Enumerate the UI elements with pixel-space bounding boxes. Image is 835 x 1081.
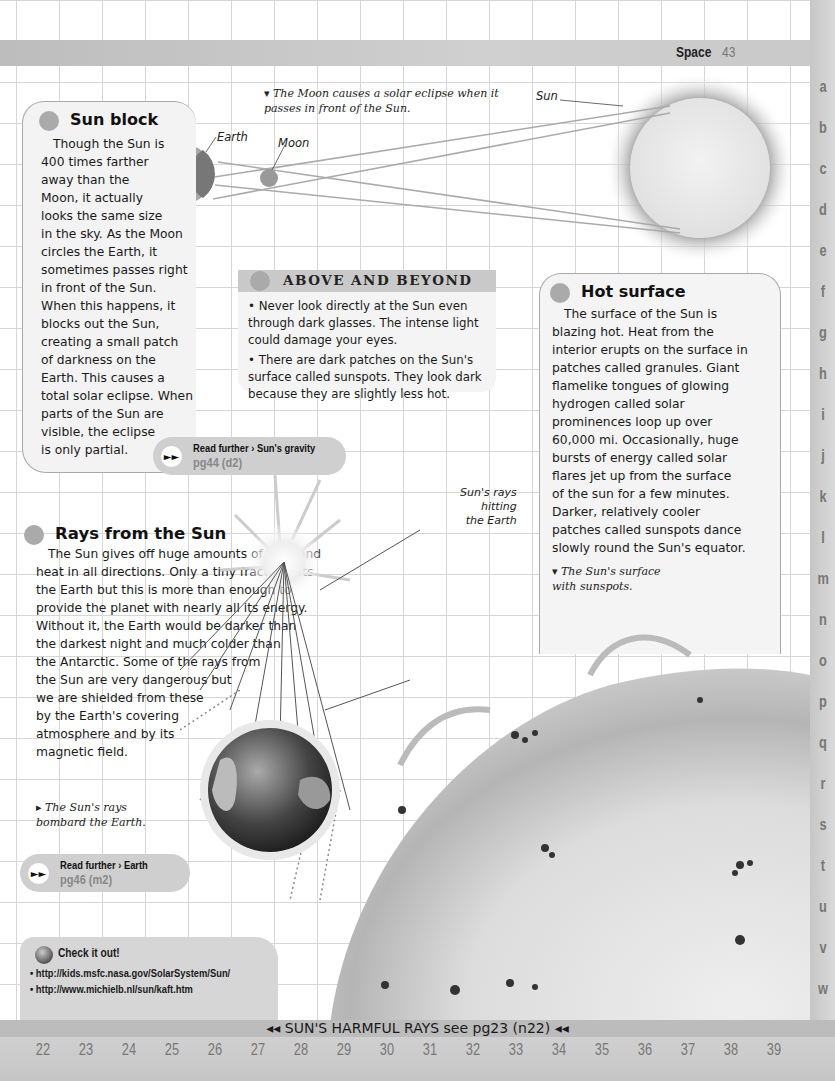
web-link-1[interactable]: • http://kids.msfc.nasa.gov/SolarSystem/… xyxy=(30,967,230,979)
grid-column-number: 31 xyxy=(423,1041,437,1059)
sun-rays-earth-illustration xyxy=(180,470,500,900)
side-index-letter-t: t xyxy=(817,857,828,875)
moon-label: Moon xyxy=(278,136,309,150)
grid-column-number: 27 xyxy=(251,1041,265,1059)
text-line: prominences loop up over xyxy=(552,413,782,431)
side-index-letter-b: b xyxy=(817,119,828,137)
side-index-letter-m: m xyxy=(817,570,828,588)
side-index-letter-j: j xyxy=(817,447,828,465)
grid-column-number: 34 xyxy=(552,1041,566,1059)
hot-surface-title: Hot surface xyxy=(581,282,686,301)
text-line: creating a small patch xyxy=(41,333,211,351)
hot-surface-heading-row: Hot surface xyxy=(550,282,686,303)
text-line: blazing hot. Heat from the xyxy=(552,323,782,341)
text-line: Earth. This causes a xyxy=(41,369,211,387)
footer-grid-numbers: 222324252627282930313233343536373839 xyxy=(0,1037,835,1081)
text-line: Though the Sun is xyxy=(41,135,211,153)
hot-surface-caption: ▾ The Sun's surfacewith sunspots. xyxy=(552,564,661,594)
side-index-letter-v: v xyxy=(817,939,828,957)
text-line: bursts of energy called solar xyxy=(552,449,782,467)
text-line: Darker, relatively cooler xyxy=(552,503,782,521)
text-line: 400 times farther xyxy=(41,153,211,171)
text-line: of darkness on the xyxy=(41,351,211,369)
text-line: 60,000 mi. Occasionally, huge xyxy=(552,431,782,449)
grid-column-number: 37 xyxy=(681,1041,695,1059)
text-line: parts of the Sun are xyxy=(41,405,211,423)
web-link-2[interactable]: • http://www.michielb.nl/sun/kaft.htm xyxy=(30,983,193,995)
read-further-earth-button[interactable]: ►► Read further › Earth pg46 (m2) xyxy=(20,854,190,892)
side-index-letter-u: u xyxy=(817,898,828,916)
section-bullet-icon xyxy=(550,283,570,303)
grid-column-number: 39 xyxy=(767,1041,781,1059)
sun-block-box: Sun block Though the Sun is400 times far… xyxy=(22,101,196,473)
above-and-beyond-item-1: • Never look directly at the Sun even th… xyxy=(248,298,488,349)
text-line: slowly round the Sun's equator. xyxy=(552,539,782,557)
text-line: with sunspots. xyxy=(552,579,661,594)
sun-label: Sun xyxy=(536,89,558,103)
side-index-letter-d: d xyxy=(817,201,828,219)
side-index-letter-n: n xyxy=(817,611,828,629)
sun-block-body: Though the Sun is400 times fartheraway t… xyxy=(41,135,211,459)
side-index-letter-a: a xyxy=(817,78,828,96)
above-and-beyond-title: ABOVE AND BEYOND xyxy=(283,272,473,288)
text-line: ▸ The Sun's rays xyxy=(36,800,146,815)
section-bullet-icon xyxy=(39,111,59,131)
grid-column-number: 28 xyxy=(294,1041,308,1059)
sun-block-title: Sun block xyxy=(70,110,158,129)
grid-column-number: 23 xyxy=(79,1041,93,1059)
side-index-tab: abcdefghijklmnopqrstuvw xyxy=(810,0,835,1030)
section-bullet-icon xyxy=(250,271,270,291)
text-line: total solar eclipse. When xyxy=(41,387,211,405)
grid-column-number: 38 xyxy=(724,1041,738,1059)
check-it-out-title: Check it out! xyxy=(58,946,120,960)
text-line: Moon, it actually xyxy=(41,189,211,207)
check-it-out-box: Check it out! • http://kids.msfc.nasa.go… xyxy=(20,937,278,1020)
grid-column-number: 33 xyxy=(509,1041,523,1059)
grid-column-number: 29 xyxy=(337,1041,351,1059)
read-further-label: Read further › Sun's gravity xyxy=(193,442,315,454)
text-line: bombard the Earth. xyxy=(36,815,146,830)
text-line: of the sun for a few minutes. xyxy=(552,485,782,503)
text-line: flares jet up from the surface xyxy=(552,467,782,485)
grid-column-number: 22 xyxy=(36,1041,50,1059)
text-line: circles the Earth, it xyxy=(41,243,211,261)
grid-column-number: 36 xyxy=(638,1041,652,1059)
text-line: ▾ The Sun's surface xyxy=(552,564,661,579)
text-line: interior erupts on the surface in xyxy=(552,341,782,359)
side-index-letter-w: w xyxy=(817,980,828,998)
fast-forward-icon: ►► xyxy=(28,863,49,884)
side-index-letter-s: s xyxy=(817,816,828,834)
above-and-beyond-item-2: • There are dark patches on the Sun's su… xyxy=(248,352,488,403)
eclipse-caption: ▾ The Moon causes a solar eclipse when i… xyxy=(264,86,504,116)
side-index-letter-g: g xyxy=(817,324,828,342)
grid-column-number: 35 xyxy=(595,1041,609,1059)
side-index-letter-f: f xyxy=(817,283,828,301)
grid-column-number: 24 xyxy=(122,1041,136,1059)
text-line: hydrogen called solar xyxy=(552,395,782,413)
side-index-letter-l: l xyxy=(817,529,828,547)
above-and-beyond-box: ABOVE AND BEYOND • Never look directly a… xyxy=(238,270,496,392)
text-line: in front of the Sun. xyxy=(41,279,211,297)
grid-column-number: 30 xyxy=(380,1041,394,1059)
read-further-label: Read further › Earth xyxy=(60,859,148,871)
read-further-ref: pg46 (m2) xyxy=(60,872,112,887)
text-line: in the sky. As the Moon xyxy=(41,225,211,243)
text-line: When this happens, it xyxy=(41,297,211,315)
text-line: patches called sunspots dance xyxy=(552,521,782,539)
grid-column-number: 25 xyxy=(165,1041,179,1059)
text-line: flamelike tongues of glowing xyxy=(552,377,782,395)
section-bullet-icon xyxy=(24,525,44,545)
text-line: The surface of the Sun is xyxy=(552,305,782,323)
side-index-letter-h: h xyxy=(817,365,828,383)
side-index-letter-o: o xyxy=(817,652,828,670)
side-index-letter-k: k xyxy=(817,488,828,506)
above-and-beyond-header: ABOVE AND BEYOND xyxy=(238,270,496,292)
earth-label: Earth xyxy=(217,130,248,144)
read-further-ref: pg44 (d2) xyxy=(193,455,242,470)
footer-cross-reference[interactable]: ◂◂ SUN'S HARMFUL RAYS see pg23 (n22) ◂◂ xyxy=(0,1020,835,1037)
text-line: away than the xyxy=(41,171,211,189)
text-line: patches called granules. Giant xyxy=(552,359,782,377)
fast-forward-icon: ►► xyxy=(161,446,182,467)
text-line: sometimes passes right xyxy=(41,261,211,279)
grid-column-number: 26 xyxy=(208,1041,222,1059)
